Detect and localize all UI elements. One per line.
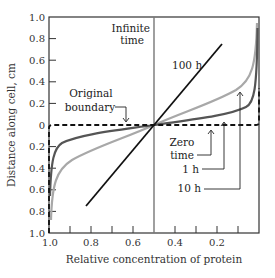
- label-10h: 10 h: [178, 182, 202, 194]
- y-axis-label: Distance along cell, cm: [5, 63, 17, 187]
- svg-text:0.6: 0.6: [125, 237, 141, 248]
- zero-time-label-2: time: [170, 149, 194, 161]
- svg-text:0.8: 0.8: [29, 206, 45, 217]
- svg-text:0.4: 0.4: [29, 163, 45, 174]
- 1h-arrow: [202, 123, 224, 169]
- zero-time-label-1: Zero: [170, 136, 195, 148]
- svg-text:0.4: 0.4: [29, 76, 45, 87]
- label-1h: 1 h: [182, 163, 199, 175]
- original-boundary-arrow: [115, 107, 126, 121]
- label-100h: 100 h: [172, 59, 202, 71]
- x-tick-labels: 1.0 0.8 0.6 0.4 0.2: [42, 237, 225, 248]
- svg-text:0: 0: [39, 120, 45, 131]
- svg-text:0.4: 0.4: [167, 237, 183, 248]
- 10h-arrow: [204, 93, 240, 189]
- svg-text:0.6: 0.6: [29, 55, 45, 66]
- x-axis-label: Relative concentration of protein: [66, 253, 243, 265]
- infinite-time-label-1: Infinite: [112, 22, 150, 34]
- svg-text:0.8: 0.8: [83, 237, 99, 248]
- svg-text:0.6: 0.6: [29, 184, 45, 195]
- infinite-time-label-2: time: [120, 34, 144, 46]
- svg-text:0.2: 0.2: [209, 237, 225, 248]
- zero-time-arrow: [197, 131, 211, 155]
- svg-text:0.2: 0.2: [29, 98, 45, 109]
- chart-svg: 1.0 0.8 0.6 0.4 0.2 0 0.2 0.4 0.6 0.8 1.…: [0, 0, 275, 278]
- original-boundary-label-2: boundary: [65, 101, 116, 113]
- svg-text:0.2: 0.2: [29, 141, 45, 152]
- original-boundary-label-1: Original: [69, 87, 113, 99]
- svg-text:0.8: 0.8: [29, 33, 45, 44]
- y-tick-labels: 1.0 0.8 0.6 0.4 0.2 0 0.2 0.4 0.6 0.8 1.…: [29, 12, 45, 239]
- svg-text:1.0: 1.0: [42, 237, 58, 248]
- svg-text:1.0: 1.0: [29, 12, 45, 23]
